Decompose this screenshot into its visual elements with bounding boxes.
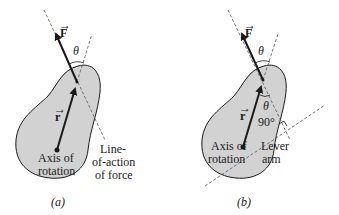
theta-label-b-inner: θ — [263, 99, 269, 113]
theta-arc-a — [69, 62, 84, 64]
axis-label-b-1: Axis of — [211, 139, 247, 153]
radius-arrow-glyph-b: → — [239, 101, 251, 115]
axis-label-a-2: rotation — [38, 164, 75, 178]
line-of-action-label-3: of force — [95, 168, 133, 182]
caption-b: (b) — [237, 195, 251, 209]
theta-label-a: θ — [73, 44, 79, 58]
line-of-action-label-2: of-action — [92, 155, 135, 169]
axis-label-a-1: Axis of — [38, 151, 74, 165]
right-angle-label: 90° — [258, 115, 275, 129]
lever-arm-label-1: Lever — [261, 139, 289, 153]
panel-a: F → θ r → Axis of rotation Line- of-acti… — [16, 10, 136, 209]
caption-a: (a) — [51, 195, 65, 209]
application-point-a — [76, 81, 79, 84]
torque-diagram: F → θ r → Axis of rotation Line- of-acti… — [0, 0, 339, 215]
panel-b: F → θ θ 90° r → Axis of rotation Lever a… — [202, 10, 325, 209]
radius-arrow-glyph-a: → — [54, 102, 66, 116]
lever-arm-label-2: arm — [262, 152, 281, 166]
force-arrow-glyph-b: → — [244, 18, 256, 32]
line-of-action-label-1: Line- — [100, 142, 126, 156]
axis-label-b-2: rotation — [208, 152, 245, 166]
application-point-b — [262, 79, 265, 82]
theta-arc-b-top — [255, 61, 270, 63]
force-arrow-glyph-a: → — [59, 18, 71, 32]
theta-label-b-top: θ — [258, 44, 264, 58]
